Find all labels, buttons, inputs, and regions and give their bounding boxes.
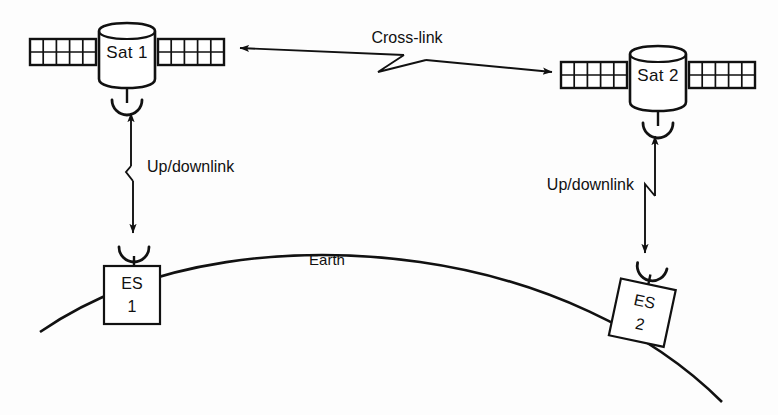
uplink-downlink-left-group[interactable]: Up/downlink <box>126 113 235 233</box>
es-1-antenna <box>119 247 149 266</box>
diagram-canvas: Earth Sat 1 <box>0 0 778 415</box>
sat-2-group[interactable]: Sat 2 <box>561 46 755 138</box>
sat-2-solar-panel-right <box>689 62 755 88</box>
cross-link-break-icon <box>378 55 426 72</box>
cross-link-arrow-right <box>426 60 552 72</box>
es-2-box <box>609 279 676 347</box>
cross-link-arrow-left <box>240 48 404 55</box>
sat-1-label: Sat 1 <box>106 43 148 62</box>
uplink-downlink-left-label: Up/downlink <box>147 158 235 175</box>
sat-1-solar-panel-left <box>30 39 96 65</box>
es-2-group[interactable]: ES 2 <box>609 260 680 347</box>
es-1-label-line2: 1 <box>128 298 137 315</box>
sat-1-antenna <box>112 88 142 115</box>
sat-1-group[interactable]: Sat 1 <box>30 23 224 115</box>
cross-link-group[interactable]: Cross-link <box>240 29 552 72</box>
uplink-right-break-icon <box>645 184 655 211</box>
uplink-downlink-right-group[interactable]: Up/downlink <box>547 136 655 253</box>
earth-label: Earth <box>309 251 345 268</box>
es-1-label-line1: ES <box>121 275 142 292</box>
sat-2-label: Sat 2 <box>637 66 679 85</box>
uplink-left-break-icon <box>126 166 133 181</box>
uplink-downlink-right-label: Up/downlink <box>547 176 635 193</box>
satellite-link-diagram: Earth Sat 1 <box>0 0 778 415</box>
sat-2-antenna <box>643 111 673 138</box>
cross-link-label: Cross-link <box>371 29 443 46</box>
sat-2-solar-panel-left <box>561 62 627 88</box>
sat-1-solar-panel-right <box>158 39 224 65</box>
es-1-group[interactable]: ES 1 <box>104 247 160 324</box>
